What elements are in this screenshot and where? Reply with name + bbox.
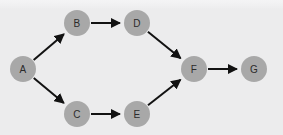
node-label-d: D: [133, 18, 140, 29]
node-d[interactable]: D: [124, 10, 150, 36]
edge-e-to-f: [148, 80, 181, 106]
node-label-b: B: [74, 18, 81, 29]
diagram-canvas: ABCDEFG: [0, 0, 283, 135]
node-label-f: F: [191, 64, 197, 75]
edge-a-to-b: [34, 34, 64, 60]
graph-svg: ABCDEFG: [0, 0, 283, 135]
node-a[interactable]: A: [10, 56, 36, 82]
node-b[interactable]: B: [64, 10, 90, 36]
node-label-c: C: [73, 109, 80, 120]
node-e[interactable]: E: [124, 101, 150, 127]
edge-d-to-f: [148, 32, 181, 58]
node-c[interactable]: C: [64, 101, 90, 127]
node-label-e: E: [134, 109, 141, 120]
edge-a-to-c: [34, 78, 64, 103]
node-f[interactable]: F: [181, 56, 207, 82]
node-label-g: G: [250, 64, 258, 75]
node-g[interactable]: G: [241, 56, 267, 82]
node-label-a: A: [20, 64, 27, 75]
